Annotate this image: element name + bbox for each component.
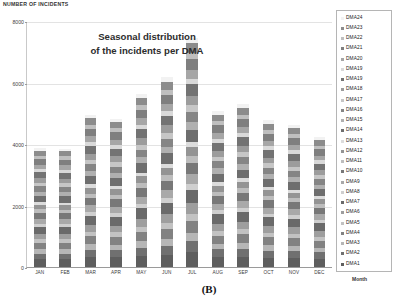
legend-item[interactable]: DMA9	[341, 177, 391, 187]
legend-swatch-icon	[341, 17, 344, 20]
bar-slot: FEB	[52, 22, 77, 267]
bar-segment	[136, 129, 148, 138]
legend-item[interactable]: DMA3	[341, 239, 391, 249]
gridline	[27, 268, 332, 269]
stacked-bar[interactable]	[237, 104, 249, 267]
legend-label: DMA18	[346, 87, 363, 92]
legend-item[interactable]: DMA16	[341, 105, 391, 115]
stacked-bar[interactable]	[314, 137, 326, 267]
bar-slot: OCT	[256, 22, 281, 267]
bar-segment	[212, 257, 224, 267]
bar-slot: DEC	[307, 22, 332, 267]
bar-segment	[288, 258, 300, 267]
legend-label: DMA4	[346, 231, 360, 236]
legend-item[interactable]: DMA13	[341, 136, 391, 146]
legend-item[interactable]: DMA10	[341, 167, 391, 177]
legend-item[interactable]: DMA22	[341, 34, 391, 44]
x-axis-tick-label: JUL	[180, 270, 205, 275]
legend-item[interactable]: DMA2	[341, 249, 391, 259]
bar-segment	[34, 227, 46, 234]
bar-segment	[110, 217, 122, 226]
legend-label: DMA9	[346, 180, 360, 185]
bar-segment	[237, 108, 249, 115]
bar-segment	[136, 150, 148, 158]
bar-segment	[237, 222, 249, 229]
stacked-bar[interactable]	[34, 148, 46, 267]
bar-segment	[59, 259, 71, 267]
legend-swatch-icon	[341, 109, 344, 112]
stacked-bar[interactable]	[212, 111, 224, 267]
stacked-bar[interactable]	[161, 77, 173, 267]
bar-segment	[186, 70, 198, 79]
figure-caption: (B)	[0, 283, 418, 295]
legend-item[interactable]: DMA20	[341, 54, 391, 64]
bar-segment	[110, 250, 122, 257]
stacked-bar[interactable]	[263, 120, 275, 267]
legend-item[interactable]: DMA12	[341, 146, 391, 156]
legend-label: DMA19	[346, 77, 363, 82]
legend-swatch-icon	[341, 242, 344, 245]
stacked-bar[interactable]	[59, 148, 71, 267]
legend-item[interactable]: DMA5	[341, 218, 391, 228]
bar-segment	[263, 237, 275, 245]
bar-segment	[263, 134, 275, 141]
stacked-bar[interactable]	[110, 118, 122, 267]
bar-segment	[161, 214, 173, 223]
legend-item[interactable]: DMA7	[341, 198, 391, 208]
bar-segment	[212, 115, 224, 122]
stacked-bar[interactable]	[288, 125, 300, 267]
bar-segment	[110, 132, 122, 139]
bar-segment	[288, 238, 300, 246]
legend-item[interactable]: DMA19	[341, 75, 391, 85]
bar-slot: NOV	[281, 22, 306, 267]
bar-segment	[263, 150, 275, 158]
legend-item[interactable]: DMA6	[341, 208, 391, 218]
legend-swatch-icon	[341, 263, 344, 266]
legend-item[interactable]: DMA14	[341, 126, 391, 136]
bar-segment	[161, 190, 173, 198]
bar-segment	[85, 176, 97, 184]
legend-swatch-icon	[341, 27, 344, 30]
bar-segment	[110, 149, 122, 157]
stacked-bar[interactable]	[186, 38, 198, 267]
legend-label: DMA7	[346, 200, 360, 205]
stacked-bar[interactable]	[136, 93, 148, 267]
legend-item[interactable]: DMA8	[341, 187, 391, 197]
bar-segment	[212, 236, 224, 244]
legend-label: DMA10	[346, 169, 363, 174]
bar-segment	[136, 208, 148, 218]
bar-segment	[263, 258, 275, 267]
legend-item[interactable]: DMA21	[341, 44, 391, 54]
bar-segment	[212, 214, 224, 223]
x-axis-tick-label: AUG	[205, 270, 230, 275]
bar-segment	[161, 82, 173, 90]
legend-item[interactable]: DMA19	[341, 64, 391, 74]
bar-segment	[212, 161, 224, 168]
bar-segment	[212, 196, 224, 204]
bar-segment	[186, 203, 198, 214]
legend-item[interactable]: DMA23	[341, 23, 391, 33]
legend-item[interactable]: DMA17	[341, 95, 391, 105]
bar-segment	[186, 163, 198, 174]
legend-swatch-icon	[341, 211, 344, 214]
legend-label: DMA17	[346, 98, 363, 103]
legend-item[interactable]: DMA4	[341, 228, 391, 238]
legend-item[interactable]: DMA15	[341, 116, 391, 126]
legend-item[interactable]: DMA18	[341, 85, 391, 95]
x-axis-tick-label: JUN	[154, 270, 179, 275]
bar-segment	[85, 216, 97, 225]
bar-segment	[161, 95, 173, 104]
legend-item[interactable]: DMA24	[341, 13, 391, 23]
bar-segment	[237, 257, 249, 267]
x-axis-title: Month	[352, 276, 367, 282]
legend-label: DMA6	[346, 210, 360, 215]
stacked-bar[interactable]	[85, 115, 97, 267]
legend-label: DMA13	[346, 139, 363, 144]
y-axis-tick-label: 0	[21, 265, 24, 271]
bar-segment	[237, 212, 249, 222]
legend-item[interactable]: DMA11	[341, 157, 391, 167]
x-axis-tick-label: OCT	[256, 270, 281, 275]
bar-segment	[161, 239, 173, 246]
legend-item[interactable]: DMA1	[341, 259, 391, 269]
y-axis-tick-label: 8000	[12, 19, 24, 25]
